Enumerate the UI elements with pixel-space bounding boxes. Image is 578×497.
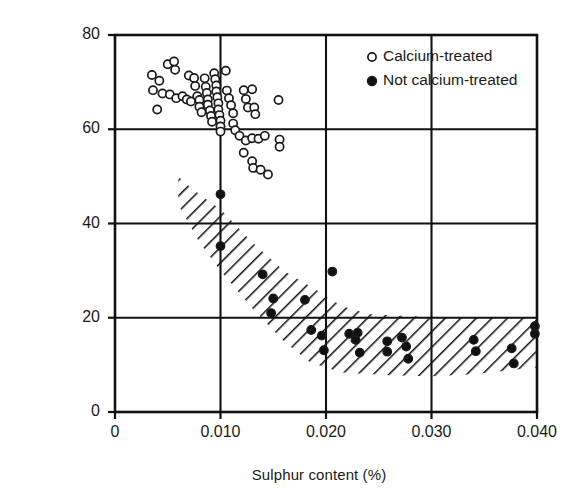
legend-item-not-calcium-treated: Not calcium-treated — [383, 71, 517, 89]
x-tick-label: 0.030 — [392, 423, 472, 441]
x-tick-label: 0.020 — [286, 423, 366, 441]
y-tick-label: 80 — [60, 25, 100, 43]
legend-item-calcium-treated: Calcium-treated — [383, 47, 492, 65]
y-tick-label: 40 — [60, 214, 100, 232]
x-tick-label: 0.040 — [497, 423, 577, 441]
y-tick-label: 60 — [60, 119, 100, 137]
chart-figure: Mean values of reduction of area in thro… — [0, 0, 578, 497]
x-tick-label: 0 — [75, 423, 155, 441]
legend-markers — [367, 53, 376, 86]
y-tick-label: 20 — [60, 308, 100, 326]
y-tick-label: 0 — [60, 402, 100, 420]
x-axis-title: Sulphur content (%) — [0, 466, 578, 483]
x-tick-label: 0.010 — [181, 423, 261, 441]
hatched-band — [178, 176, 537, 376]
series-calcium-treated-points — [148, 57, 284, 178]
